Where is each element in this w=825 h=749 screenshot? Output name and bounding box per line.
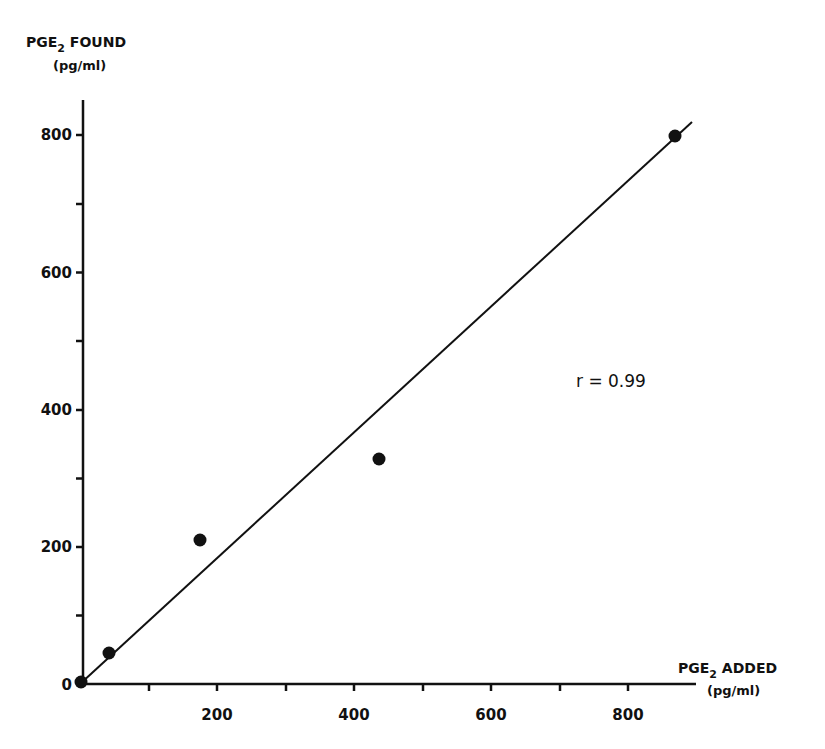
y-axis-unit: (pg/ml) bbox=[53, 58, 106, 73]
x-tick-label-800: 800 bbox=[612, 706, 643, 724]
x-tick-label-400: 400 bbox=[338, 706, 369, 724]
regression-line bbox=[80, 122, 692, 684]
data-point bbox=[75, 676, 88, 689]
y-tick-label-200: 200 bbox=[41, 538, 72, 556]
data-point bbox=[194, 534, 207, 547]
correlation-annotation: r = 0.99 bbox=[576, 371, 646, 391]
x-tick-label-200: 200 bbox=[201, 706, 232, 724]
x-axis-title: PGE2 ADDED bbox=[678, 660, 777, 681]
y-tick-label-400: 400 bbox=[41, 401, 72, 419]
data-point bbox=[669, 130, 682, 143]
y-tick-label-800: 800 bbox=[41, 126, 72, 144]
x-axis-unit: (pg/ml) bbox=[707, 683, 760, 698]
y-tick-label-600: 600 bbox=[41, 264, 72, 282]
data-point bbox=[373, 453, 386, 466]
data-point bbox=[103, 647, 116, 660]
x-tick-label-600: 600 bbox=[475, 706, 506, 724]
y-axis-title: PGE2 FOUND bbox=[26, 34, 126, 55]
y-tick-label-0: 0 bbox=[62, 676, 72, 694]
scatter-chart: PGE2 FOUND (pg/ml) PGE2 ADDED (pg/ml) 0 … bbox=[0, 0, 825, 749]
